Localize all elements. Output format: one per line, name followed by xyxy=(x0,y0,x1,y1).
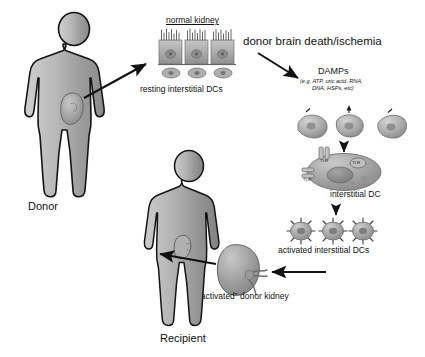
activated-dc-cells xyxy=(288,218,380,244)
recipient-label: Recipient xyxy=(160,332,206,344)
tlr-label-apical: TLR xyxy=(320,159,328,164)
insult-label: donor brain death/ischemia xyxy=(243,35,382,48)
normal-kidney-tubule-diagram xyxy=(158,28,236,80)
damp-fragment-cluster xyxy=(292,108,417,146)
donor-silhouette xyxy=(18,12,138,200)
transplant-dc-activation-diagram: Donor normal kidney xyxy=(0,0,425,357)
resting-dcs-label: resting interstitial DCs xyxy=(140,85,223,94)
resting-dc-cells xyxy=(162,68,232,78)
interstitial-dc-cell xyxy=(300,145,386,193)
tlr-label-lateral-left: TLR xyxy=(303,178,311,183)
damps-examples-line1: (e.g. ATP, uric acid, RNA, xyxy=(300,78,363,85)
activated-dcs-label: activated interstitial DCs xyxy=(278,246,369,255)
damps-examples-line2: DNA, HSPs, etc) xyxy=(312,85,354,92)
recipient-silhouette xyxy=(142,150,242,330)
donor-label: Donor xyxy=(28,200,58,212)
interstitial-dc-label: interstitial DC xyxy=(330,190,381,199)
normal-kidney-label: normal kidney xyxy=(166,16,219,25)
tlr-label-central-right: TLR xyxy=(352,161,360,166)
damps-title: DAMPs xyxy=(318,67,349,77)
arrow-insult-to-damps xyxy=(258,53,298,78)
